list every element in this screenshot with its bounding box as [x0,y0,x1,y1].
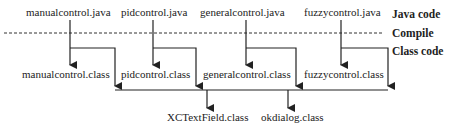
shared-class-xctextfield: XCTextField.class [167,111,248,123]
class-file-pidcontrol: pidcontrol.class [121,68,190,80]
source-file-fuzzycontrol: fuzzycontrol.java [304,6,381,18]
class-file-fuzzycontrol: fuzzycontrol.class [304,68,384,80]
stage-label-class-code: Class code [392,45,443,58]
stage-label-compile: Compile [392,27,434,40]
source-file-generalcontrol: generalcontrol.java [200,6,285,18]
source-file-pidcontrol: pidcontrol.java [121,6,187,18]
stage-label-java-code: Java code [392,8,440,21]
class-file-generalcontrol: generalcontrol.class [203,68,291,80]
class-file-manualcontrol: manualcontrol.class [22,68,110,80]
shared-class-okdialog: okdialog.class [261,111,324,123]
source-file-manualcontrol: manualcontrol.java [26,6,111,18]
